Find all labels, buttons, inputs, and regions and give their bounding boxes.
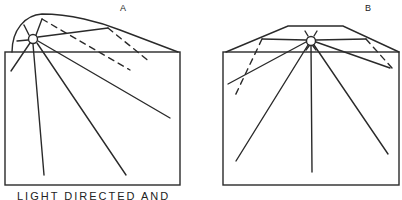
panel-a-lamp — [29, 35, 38, 44]
figure-caption: LIGHT DIRECTED AND — [17, 190, 170, 200]
panel-b-lamp — [307, 37, 316, 46]
panel-a-figure — [5, 14, 180, 185]
panel-b-figure — [223, 26, 399, 185]
panel-a-room — [5, 52, 180, 185]
diagram-canvas — [0, 0, 402, 200]
